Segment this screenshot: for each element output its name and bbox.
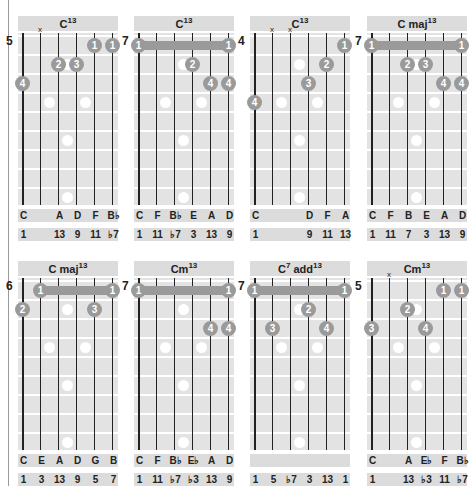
fret-line [18, 356, 118, 358]
finger-dot: 1 [87, 38, 102, 53]
fret-line [134, 92, 234, 94]
muted-string-x: x [288, 25, 292, 34]
chord-extension: 13 [421, 261, 430, 270]
interval: 1 [15, 473, 32, 486]
fret-line [367, 356, 467, 358]
fret-line [18, 35, 118, 37]
note-name: B♭ [105, 209, 122, 223]
fret-line [367, 318, 467, 320]
finger-dot: 4 [454, 76, 469, 91]
intervals-row: 113♭311♭7 [367, 473, 467, 486]
interval: 1 [364, 228, 381, 242]
fret-line [250, 375, 350, 377]
intervals-row: 11173139 [367, 228, 467, 241]
start-fret-number: 7 [122, 34, 129, 48]
fret-line [250, 280, 350, 282]
guitar-string [389, 278, 390, 450]
fret-line [367, 337, 467, 339]
fret-line [367, 432, 467, 434]
barre-bar [254, 286, 344, 295]
chord-root: Cm [171, 263, 189, 275]
finger-dot: 4 [203, 321, 218, 336]
chord-extension: 13 [428, 16, 437, 25]
fret-line [134, 73, 234, 75]
interval: 11 [149, 473, 166, 486]
note-name: D [69, 209, 86, 223]
fret-inlay-marker [160, 342, 171, 353]
note-names-row: CAE♭FB♭ [367, 454, 467, 467]
note-names-row [250, 454, 350, 467]
finger-dot: 1 [454, 283, 469, 298]
guitar-string [228, 33, 229, 205]
barre-bar [371, 41, 461, 50]
fret-line [367, 54, 467, 56]
fret-line [18, 54, 118, 56]
chord-title: C13 [18, 16, 118, 31]
note-name: D [454, 209, 471, 223]
fret-inlay-marker [178, 135, 189, 146]
note-name: B♭ [167, 454, 184, 468]
chord-diagram: C135x42311CADFB♭113911♭7 [18, 16, 118, 248]
finger-dot: 1 [364, 38, 379, 53]
fret-line [367, 206, 467, 208]
muted-string-x: x [387, 270, 391, 279]
fret-inlay-marker [411, 192, 422, 203]
fret-line [134, 356, 234, 358]
interval: 11 [319, 228, 336, 242]
note-name: A [203, 454, 220, 468]
fret-line [18, 432, 118, 434]
guitar-string [389, 33, 390, 205]
fret-inlay-marker [80, 97, 91, 108]
finger-dot: 1 [105, 283, 120, 298]
fret-line [250, 394, 350, 396]
note-name: B♭ [454, 454, 471, 468]
finger-dot: 3 [87, 302, 102, 317]
note-name: B♭ [167, 209, 184, 223]
fret-line [134, 187, 234, 189]
fret-inlay-marker [160, 97, 171, 108]
interval: 13 [51, 228, 68, 242]
fret-inlay-marker [44, 342, 55, 353]
guitar-string [272, 278, 273, 450]
fret-line [18, 394, 118, 396]
page-margin-rule [8, 0, 9, 486]
finger-dot: 1 [436, 283, 451, 298]
note-name: G [87, 454, 104, 468]
note-name: E♭ [185, 454, 202, 468]
guitar-string [254, 33, 256, 205]
interval: 3 [418, 228, 435, 242]
note-name: E [33, 454, 50, 468]
start-fret-number: 7 [122, 279, 129, 293]
interval: 1 [364, 473, 381, 486]
note-names-row: CADFB♭ [18, 209, 118, 222]
fret-inlay-marker [393, 342, 404, 353]
interval: 13 [400, 473, 417, 486]
finger-dot: 1 [131, 283, 146, 298]
chord-extension: 13 [300, 16, 309, 25]
fret-line [367, 149, 467, 151]
chord-diagram: Cm135x32411CAE♭FB♭113♭311♭7 [367, 261, 467, 486]
note-name: A [337, 209, 354, 223]
fret-line [18, 73, 118, 75]
note-names-row: CDFA [250, 209, 350, 222]
fret-line [250, 451, 350, 453]
finger-dot: 1 [221, 38, 236, 53]
fret-line [18, 168, 118, 170]
note-name: F [436, 454, 453, 468]
finger-dot: 3 [265, 321, 280, 336]
note-names-row: CEADGB [18, 454, 118, 467]
fretboard [367, 33, 467, 205]
guitar-string [174, 278, 175, 450]
fret-inlay-marker [178, 304, 189, 315]
fret-inlay-marker [196, 97, 207, 108]
fret-line [134, 432, 234, 434]
finger-dot: 2 [400, 302, 415, 317]
fretboard [367, 278, 467, 450]
fret-line [18, 299, 118, 301]
fret-line [18, 280, 118, 282]
chord-title: Cm13 [134, 261, 234, 276]
intervals-row: 15♭73131 [250, 473, 350, 486]
fret-line [18, 375, 118, 377]
note-name: B [400, 209, 417, 223]
note-name: C [364, 209, 381, 223]
